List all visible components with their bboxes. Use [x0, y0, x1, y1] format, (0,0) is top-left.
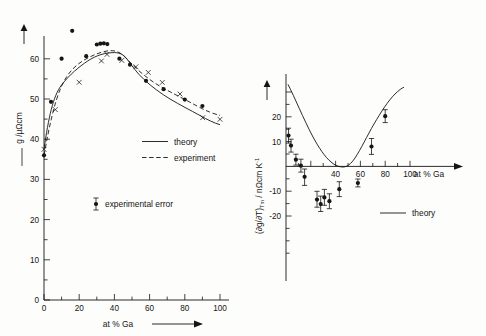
- x-tick-label-60: 60: [145, 304, 155, 313]
- experiment-point: [49, 100, 53, 104]
- x-tick-label-80: 80: [180, 304, 190, 313]
- y-tick-label-right-neg20: -20: [269, 212, 281, 221]
- data-point-errorbar: [293, 154, 298, 165]
- y-axis-arrow-head: [21, 24, 28, 31]
- data-point-errorbar: [318, 196, 323, 211]
- theory-marker: [146, 70, 151, 75]
- x-tick-label-100: 100: [213, 304, 227, 313]
- data-point-errorbar: [327, 194, 332, 209]
- x-tick-label-20: 20: [75, 304, 85, 313]
- legend-label-experiment: experiment: [174, 153, 216, 163]
- figure-root: 0 10 20 30 40 50 60 g /μΩcm: [0, 0, 486, 336]
- y-tick-label-20: 20: [30, 216, 40, 225]
- y-axis-group: 0 10 20 30 40 50 60 g /μΩcm: [14, 24, 50, 305]
- experiment-point: [105, 42, 109, 46]
- experiment-point: [128, 63, 132, 67]
- y-tick-label-right-10: 10: [272, 138, 282, 147]
- x-tick-label-right-80: 80: [381, 170, 391, 179]
- theory-marker: [105, 52, 110, 57]
- y-tick-label-50: 50: [30, 95, 40, 104]
- svg-text:(∂g/∂T)Tm / nΩcm K-1: (∂g/∂T)Tm / nΩcm K-1: [254, 158, 265, 234]
- x-axis-group: 0 20 40 60 80 100 at % Ga: [42, 294, 229, 329]
- x-tick-label-40: 40: [110, 304, 120, 313]
- resistivity-svg: 0 10 20 30 40 50 60 g /μΩcm: [0, 0, 250, 336]
- data-point-errorbar: [355, 179, 360, 187]
- x-tick-label-right-40: 40: [331, 170, 341, 179]
- data-point-errorbar: [322, 189, 327, 205]
- data-point-errorbar: [298, 159, 303, 172]
- y-tick-label-40: 40: [30, 135, 40, 144]
- experiment-point: [162, 87, 166, 91]
- experiment-point: [200, 104, 204, 108]
- experimental-error-label: experimental error: [105, 199, 173, 209]
- experiment-point: [70, 29, 74, 33]
- experiment-point: [117, 57, 121, 61]
- y-axis-group-right: 20 10 -10 -20 (∂g/∂T)Tm / nΩcm K-1: [254, 74, 292, 281]
- legend-group-right: theory: [380, 208, 436, 218]
- theory-marker: [160, 80, 165, 85]
- y-tick-label-right-20: 20: [272, 113, 282, 122]
- y-tick-label-right-neg10: -10: [269, 187, 281, 196]
- legend-group: theory experiment: [142, 137, 216, 163]
- legend-label-theory: theory: [174, 137, 198, 147]
- x-tick-label-0: 0: [42, 304, 47, 313]
- chart-panel-dresistivity-dt: 20 10 -10 -20 (∂g/∂T)Tm / nΩcm K-1: [243, 0, 486, 336]
- theory-curve: [44, 53, 220, 150]
- error-bar-icon-dot: [94, 202, 98, 206]
- experiment-point: [84, 54, 88, 58]
- data-point-errorbar: [369, 139, 374, 155]
- data-point-errorbar: [288, 139, 293, 152]
- experiment-point: [183, 98, 187, 102]
- legend-label-theory-right: theory: [412, 208, 436, 218]
- experiment-point: [42, 153, 46, 157]
- experiment-point: [102, 41, 106, 45]
- y-ticks-right: [286, 92, 292, 253]
- y-axis-title-units-exponent: -1: [254, 158, 260, 163]
- theory-marker: [77, 80, 82, 85]
- y-tick-label-60: 60: [30, 55, 40, 64]
- y-tick-label-30: 30: [30, 175, 40, 184]
- x-axis-title-right: at % Ga: [414, 169, 445, 179]
- x-axis-arrow-head: [194, 321, 203, 328]
- data-point-errorbar: [383, 110, 388, 123]
- dresistivity-dt-svg: 20 10 -10 -20 (∂g/∂T)Tm / nΩcm K-1: [243, 0, 486, 336]
- y-axis-title-main: (∂g/∂T): [254, 208, 264, 234]
- x-ticks-right: [298, 161, 410, 167]
- x-axis-arrow-head-right: [454, 163, 463, 170]
- theory-marker: [99, 59, 104, 64]
- y-axis-title: g /μΩcm: [14, 112, 24, 144]
- experiment-point: [95, 42, 99, 46]
- theory-curve-right: [288, 84, 404, 167]
- x-axis-title: at % Ga: [103, 319, 134, 329]
- y-tick-label-0: 0: [34, 296, 39, 305]
- data-point-errorbar: [337, 182, 342, 197]
- data-point-errorbar: [302, 169, 307, 185]
- experiment-point: [60, 57, 64, 61]
- y-axis-title-group: g /μΩcm: [14, 112, 24, 144]
- y-ticks: [44, 59, 50, 300]
- x-axis-group-right: 40 60 80 100 at % Ga: [286, 161, 463, 179]
- x-ticks: [44, 294, 220, 300]
- experimental-error-annotation: experimental error: [93, 198, 173, 210]
- y-axis-title-units: / nΩcm K: [254, 163, 264, 200]
- y-axis-arrow-head-right: [264, 80, 271, 87]
- chart-panel-resistivity: 0 10 20 30 40 50 60 g /μΩcm: [0, 0, 250, 336]
- x-tick-label-right-60: 60: [356, 170, 366, 179]
- data-points-group-right: [286, 110, 388, 212]
- theory-marker: [218, 117, 223, 122]
- experiment-point: [144, 79, 148, 83]
- y-tick-label-10: 10: [30, 256, 40, 265]
- y-axis-title-group-right: (∂g/∂T)Tm / nΩcm K-1: [254, 158, 265, 234]
- data-point-errorbar: [286, 128, 291, 143]
